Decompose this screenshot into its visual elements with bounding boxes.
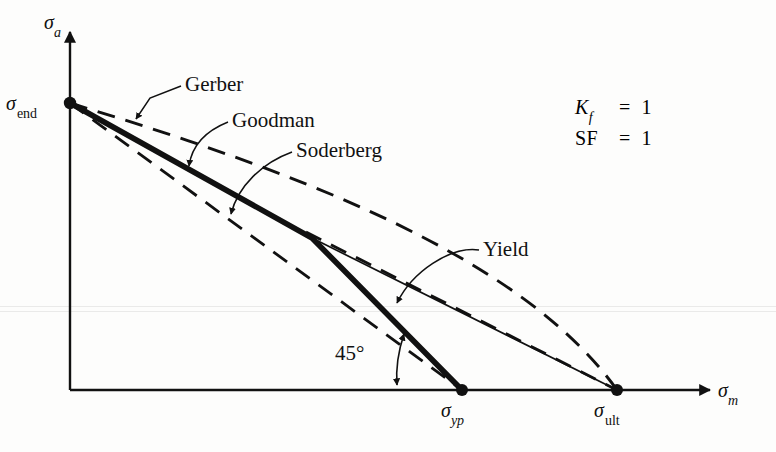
diagram-canvas: [0, 0, 776, 452]
angle-45-label: 45°: [335, 343, 364, 364]
figure-root: σa σm σend σyp σult Gerber Goodman Soder…: [0, 0, 776, 452]
sigma-ult-label: σult: [594, 400, 619, 425]
goodman-thin-extension: [312, 238, 617, 390]
yield-label: Yield: [483, 239, 529, 260]
node-sigma-end: [64, 97, 76, 109]
sigma-end-label: σend: [6, 93, 36, 118]
goodman-label: Goodman: [232, 110, 315, 131]
kf-line: Kf= 1: [575, 96, 652, 123]
node-sigma-yp: [456, 384, 468, 396]
gerber-leader: [136, 86, 181, 119]
sigma-yp-label: σyp: [441, 400, 464, 425]
parameters-annotation: Kf= 1 SF= 1: [575, 96, 652, 154]
node-sigma-ult: [611, 384, 623, 396]
x-axis-label: σm: [718, 380, 738, 405]
soderberg-curve: [70, 103, 462, 390]
gerber-label: Gerber: [185, 74, 243, 95]
sf-line: SF= 1: [575, 127, 652, 150]
soderberg-leader: [231, 152, 292, 214]
yield-leader: [397, 250, 479, 303]
y-axis-label: σa: [44, 12, 61, 37]
soderberg-label: Soderberg: [296, 140, 382, 161]
